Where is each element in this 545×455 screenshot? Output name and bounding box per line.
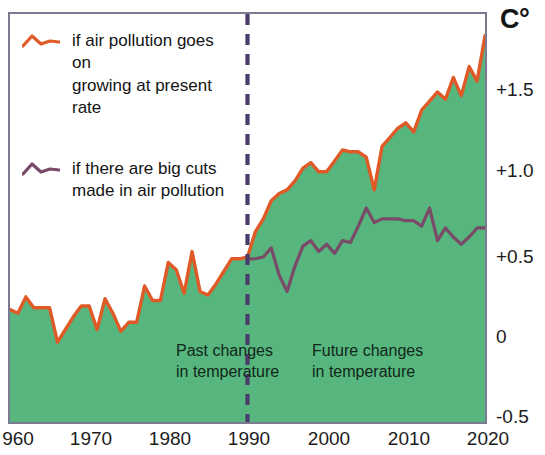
x-tick-label: 2010 <box>381 429 437 448</box>
y-tick-label: +0.5 <box>496 247 534 266</box>
x-tick-label: 1970 <box>63 429 119 448</box>
legend-label-line1: if air pollution goes on <box>72 30 237 75</box>
chart-legend: if air pollution goes on growing at pres… <box>22 30 237 241</box>
legend-item-cuts: if there are big cuts made in air pollut… <box>22 158 237 203</box>
annotation-line1: Past changes <box>176 341 279 362</box>
legend-label-growing: if air pollution goes on growing at pres… <box>72 30 237 120</box>
legend-line-icon <box>22 160 60 178</box>
x-tick-label: 2000 <box>301 429 357 448</box>
annotation-line1: Future changes <box>312 341 423 362</box>
x-tick-label: 2020 <box>460 429 516 448</box>
x-tick-label: 1990 <box>221 429 277 448</box>
annotation-line2: in temperature <box>312 362 423 383</box>
annotation-past-changes: Past changes in temperature <box>176 341 279 383</box>
y-tick-label: +1.5 <box>496 80 534 99</box>
legend-label-cuts: if there are big cuts made in air pollut… <box>72 158 224 203</box>
y-axis-unit-label: C° <box>500 6 529 33</box>
legend-label-line2: growing at present rate <box>72 75 237 120</box>
legend-item-growing: if air pollution goes on growing at pres… <box>22 30 237 120</box>
x-tick-label: 960 <box>0 429 42 448</box>
chart-figure: C° +1.5 +1.0 +0.5 0 -0.5 960 1970 1980 1… <box>0 0 545 455</box>
annotation-line2: in temperature <box>176 362 279 383</box>
x-tick-label: 1980 <box>142 429 198 448</box>
annotation-future-changes: Future changes in temperature <box>312 341 423 383</box>
legend-line-icon <box>22 32 60 50</box>
legend-label-line1: if there are big cuts <box>72 158 224 180</box>
y-tick-label: -0.5 <box>496 407 529 426</box>
y-tick-label: 0 <box>496 327 507 346</box>
legend-label-line2: made in air pollution <box>72 180 224 202</box>
y-tick-label: +1.0 <box>496 161 534 180</box>
